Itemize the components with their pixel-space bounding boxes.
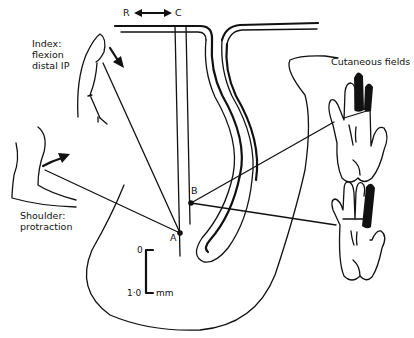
scale-bottom-label: 1·0 [127, 288, 141, 299]
connection-lines [45, 63, 336, 233]
electrode-tracks [175, 26, 190, 256]
scale-top-label: 0 [137, 245, 143, 256]
point-a-label: A [170, 232, 177, 243]
index-label-line3: distal IP [32, 60, 69, 71]
caudal-label: C [175, 7, 182, 18]
rostral-label: R [123, 7, 130, 18]
rostral-caudal-arrow-icon [134, 9, 172, 17]
shoulder-protraction-arrow-icon [43, 153, 70, 166]
shoulder-drawing [12, 127, 76, 207]
cutaneous-fields-label: Cutaneous fields [331, 56, 410, 67]
index-label-line1: Index: [32, 38, 61, 49]
point-b-label: B [191, 185, 198, 196]
brain-outline [86, 56, 338, 330]
cortical-surface [115, 23, 318, 44]
sulcus [196, 40, 257, 262]
index-finger-drawing [78, 34, 107, 124]
shoulder-label-line1: Shoulder: [20, 210, 65, 221]
shoulder-label-line2: protraction [20, 221, 72, 232]
lower-hand-drawing [332, 182, 385, 280]
index-label-line2: flexion [32, 49, 64, 60]
upper-hand-drawing [329, 72, 387, 182]
cortex-recording-diagram: R C Index: flexion distal IP Shoulder: p… [0, 0, 414, 338]
finger-flexion-arrow-icon [110, 48, 124, 68]
scale-unit-label: mm [156, 288, 174, 299]
scale-bar [146, 250, 153, 293]
